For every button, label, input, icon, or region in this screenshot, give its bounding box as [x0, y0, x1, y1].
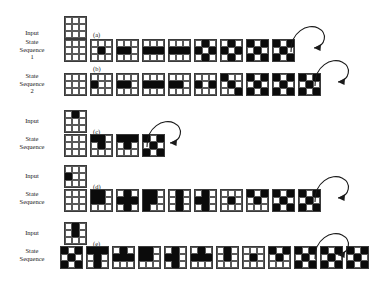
grid-cell — [176, 54, 183, 61]
grid-cell — [105, 197, 112, 204]
grid-cell — [98, 204, 105, 211]
grid-cell — [79, 237, 86, 244]
grid-cell — [150, 149, 157, 156]
grid-cell — [335, 247, 342, 254]
grid-cell — [117, 74, 124, 81]
grid-cell — [361, 254, 368, 261]
state-sequence-c — [64, 134, 165, 157]
grid-cell — [209, 204, 216, 211]
grid-cell — [247, 204, 254, 211]
grid-cell — [261, 88, 268, 95]
grid-cell — [105, 74, 112, 81]
grid-cell — [131, 74, 138, 81]
grid-cell — [261, 204, 268, 211]
state-grid-e-11 — [346, 246, 369, 269]
grid-cell — [124, 54, 131, 61]
grid-cell — [65, 24, 72, 31]
grid-cell — [79, 24, 86, 31]
grid-cell — [65, 142, 72, 149]
grid-cell — [131, 40, 138, 47]
grid-cell — [309, 254, 316, 261]
grid-cell — [91, 197, 98, 204]
grid-cell — [257, 254, 264, 261]
grid-cell — [153, 247, 160, 254]
grid-cell — [247, 40, 254, 47]
grid-cell — [261, 81, 268, 88]
grid-cell — [269, 254, 276, 261]
grid-cell — [65, 204, 72, 211]
state-grid-e-3 — [138, 246, 161, 269]
grid-cell — [131, 88, 138, 95]
state-grid-b-4 — [168, 73, 191, 96]
grid-cell — [72, 81, 79, 88]
grid-cell — [183, 204, 190, 211]
grid-cell — [172, 261, 179, 268]
grid-cell — [65, 190, 72, 197]
grid-cell — [313, 81, 320, 88]
grid-cell — [280, 74, 287, 81]
input-grid-d — [64, 165, 87, 188]
state-sequence-b — [64, 73, 321, 96]
state-grid-d-5 — [194, 189, 217, 212]
grid-cell — [250, 247, 257, 254]
grid-cell — [276, 254, 283, 261]
grid-cell — [169, 74, 176, 81]
grid-cell — [105, 204, 112, 211]
grid-cell — [79, 180, 86, 187]
state-grid-b-3 — [142, 73, 165, 96]
grid-cell — [169, 40, 176, 47]
grid-cell — [250, 254, 257, 261]
state-grid-a-2 — [116, 39, 139, 62]
grid-cell — [295, 247, 302, 254]
grid-cell — [146, 254, 153, 261]
grid-cell — [299, 74, 306, 81]
grid-cell — [287, 54, 294, 61]
grid-cell — [72, 24, 79, 31]
grid-cell — [79, 40, 86, 47]
state-grid-d-6 — [220, 189, 243, 212]
grid-cell — [65, 47, 72, 54]
grid-cell — [79, 204, 86, 211]
grid-cell — [202, 190, 209, 197]
grid-cell — [91, 190, 98, 197]
grid-cell — [79, 111, 86, 118]
grid-cell — [309, 247, 316, 254]
grid-cell — [65, 197, 72, 204]
grid-cell — [98, 142, 105, 149]
grid-cell — [235, 88, 242, 95]
grid-cell — [321, 247, 328, 254]
grid-cell — [299, 204, 306, 211]
grid-cell — [273, 88, 280, 95]
grid-cell — [299, 197, 306, 204]
grid-cell — [354, 254, 361, 261]
grid-cell — [72, 88, 79, 95]
grid-cell — [79, 223, 86, 230]
grid-cell — [79, 47, 86, 54]
grid-cell — [209, 40, 216, 47]
grid-cell — [321, 261, 328, 268]
grid-cell — [79, 190, 86, 197]
grid-cell — [221, 54, 228, 61]
grid-cell — [79, 135, 86, 142]
grid-cell — [306, 190, 313, 197]
state-grid-b-8 — [272, 73, 295, 96]
grid-cell — [280, 47, 287, 54]
grid-cell — [65, 74, 72, 81]
grid-cell — [261, 74, 268, 81]
grid-cell — [287, 190, 294, 197]
grid-cell — [157, 81, 164, 88]
row-label-state-sequence-1: State Sequence 1 — [6, 38, 58, 61]
grid-cell — [72, 17, 79, 24]
grid-cell — [91, 47, 98, 54]
grid-cell — [143, 88, 150, 95]
grid-cell — [79, 149, 86, 156]
grid-cell — [98, 149, 105, 156]
grid-cell — [347, 254, 354, 261]
grid-cell — [105, 142, 112, 149]
grid-cell — [98, 47, 105, 54]
grid-cell — [273, 190, 280, 197]
grid-cell — [247, 81, 254, 88]
grid-cell — [124, 149, 131, 156]
grid-cell — [183, 197, 190, 204]
